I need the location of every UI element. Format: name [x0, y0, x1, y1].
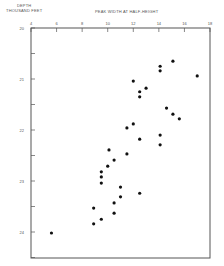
- data-point: [50, 231, 53, 234]
- data-point: [196, 74, 199, 77]
- x-tick-label: 14: [157, 21, 162, 26]
- data-point: [171, 113, 174, 116]
- data-point: [113, 158, 116, 161]
- data-point: [138, 138, 141, 141]
- x-tick-label: 8: [81, 21, 84, 26]
- data-point: [165, 106, 168, 109]
- data-point: [171, 60, 174, 63]
- x-tick-label: 12: [131, 21, 136, 26]
- data-point: [159, 143, 162, 146]
- data-point: [125, 126, 128, 129]
- data-point: [144, 87, 147, 90]
- data-point: [132, 122, 135, 125]
- data-point: [113, 212, 116, 215]
- data-point: [92, 206, 95, 209]
- data-point: [119, 195, 122, 198]
- data-point: [100, 175, 103, 178]
- data-point: [159, 134, 162, 137]
- y-tick-label: 23: [20, 179, 25, 184]
- x-tick-label: 6: [55, 21, 58, 26]
- data-point: [178, 117, 181, 120]
- data-point: [113, 201, 116, 204]
- data-point: [92, 222, 95, 225]
- data-point: [106, 165, 109, 168]
- y-tick-label: 21: [20, 77, 25, 82]
- data-point: [159, 65, 162, 68]
- data-point: [125, 152, 128, 155]
- x-tick-label: 18: [208, 21, 213, 26]
- data-point: [132, 79, 135, 82]
- data-point: [107, 148, 110, 151]
- data-point: [100, 181, 103, 184]
- data-point: [159, 69, 162, 72]
- data-point: [138, 90, 141, 93]
- x-tick-label: 4: [30, 21, 33, 26]
- data-point: [138, 95, 141, 98]
- y-tick-label: 22: [20, 128, 25, 133]
- x-tick-label: 10: [105, 21, 110, 26]
- scatter-plot: 46810121416182021222324: [0, 0, 224, 266]
- y-tick-label: 24: [20, 230, 25, 235]
- x-tick-label: 16: [182, 21, 187, 26]
- data-point: [100, 170, 103, 173]
- y-tick-label: 20: [20, 26, 25, 31]
- data-point: [119, 186, 122, 189]
- data-point: [138, 192, 141, 195]
- plot-frame: [31, 28, 210, 258]
- data-point: [100, 218, 103, 221]
